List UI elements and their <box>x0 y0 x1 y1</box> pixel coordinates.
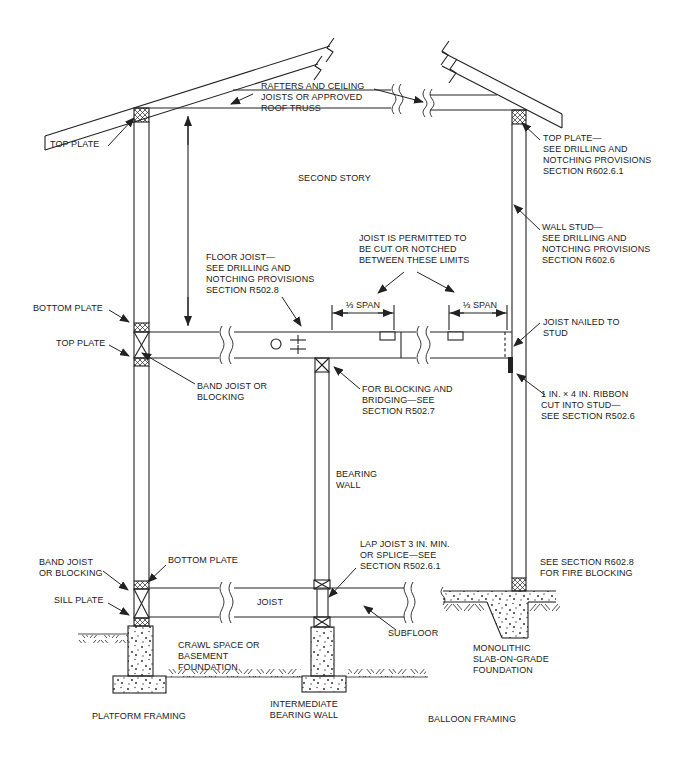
label-second-story: SECOND STORY <box>298 173 371 184</box>
ribbon-mark <box>508 357 513 373</box>
label-bottom-plate-lower: BOTTOM PLATE <box>168 555 238 566</box>
label-bearing-wall: BEARING WALL <box>336 469 377 491</box>
label-subfloor: SUBFLOOR <box>388 628 438 639</box>
left-wall <box>134 108 149 626</box>
label-top-plate-mid: TOP PLATE <box>56 338 105 349</box>
diagram-linework <box>0 0 688 760</box>
intermediate-pier <box>302 627 346 692</box>
label-monolithic-slab: MONOLITHIC SLAB-ON-GRADE FOUNDATION <box>473 643 549 676</box>
label-balloon-framing: BALLOON FRAMING <box>428 714 516 725</box>
label-ribbon: 1 IN. × 4 IN. RIBBON CUT INTO STUD— SEE … <box>541 389 635 422</box>
label-joist-cut-limits: JOIST IS PERMITTED TO BE CUT OR NOTCHED … <box>359 233 469 266</box>
label-joist-nailed: JOIST NAILED TO STUD <box>543 317 620 339</box>
label-blocking-bridging: FOR BLOCKING AND BRIDGING—SEE SECTION R5… <box>362 384 453 417</box>
label-intermediate-bearing-wall: INTERMEDIATE BEARING WALL <box>262 699 346 721</box>
label-platform-framing: PLATFORM FRAMING <box>92 711 186 722</box>
right-wall <box>505 110 526 591</box>
label-crawl-space: CRAWL SPACE OR BASEMENT FOUNDATION <box>178 640 260 673</box>
roof-right <box>423 41 562 128</box>
label-one-third-span-right: ⅓ SPAN <box>452 300 508 311</box>
label-band-joist-lower: BAND JOIST OR BLOCKING <box>39 557 103 579</box>
label-band-joist-upper: BAND JOIST OR BLOCKING <box>197 381 267 403</box>
label-wall-stud: WALL STUD— SEE DRILLING AND NOTCHING PRO… <box>542 222 650 266</box>
label-one-third-span-left: ⅓ SPAN <box>336 300 390 311</box>
label-top-plate-left: TOP PLATE <box>50 139 99 150</box>
left-foundation <box>78 626 166 693</box>
label-joist: JOIST <box>250 597 290 608</box>
leader-lines <box>103 89 545 630</box>
label-lap-joist: LAP JOIST 3 IN. MIN. OR SPLICE—SEE SECTI… <box>360 539 450 572</box>
second-floor-band <box>149 326 512 364</box>
label-floor-joist: FLOOR JOIST— SEE DRILLING AND NOTCHING P… <box>206 252 314 296</box>
label-bottom-plate-upper: BOTTOM PLATE <box>33 303 103 314</box>
label-fire-blocking: SEE SECTION R602.8 FOR FIRE BLOCKING <box>540 557 634 579</box>
label-rafters: RAFTERS AND CEILING JOISTS OR APPROVED R… <box>261 81 364 114</box>
label-sill-plate: SILL PLATE <box>54 595 104 606</box>
bearing-wall <box>314 358 330 589</box>
hole-notch-symbols <box>271 335 306 354</box>
monolithic-slab <box>441 587 560 638</box>
framing-diagram: RAFTERS AND CEILING JOISTS OR APPROVED R… <box>0 0 688 760</box>
label-top-plate-right: TOP PLATE— SEE DRILLING AND NOTCHING PRO… <box>543 133 651 177</box>
